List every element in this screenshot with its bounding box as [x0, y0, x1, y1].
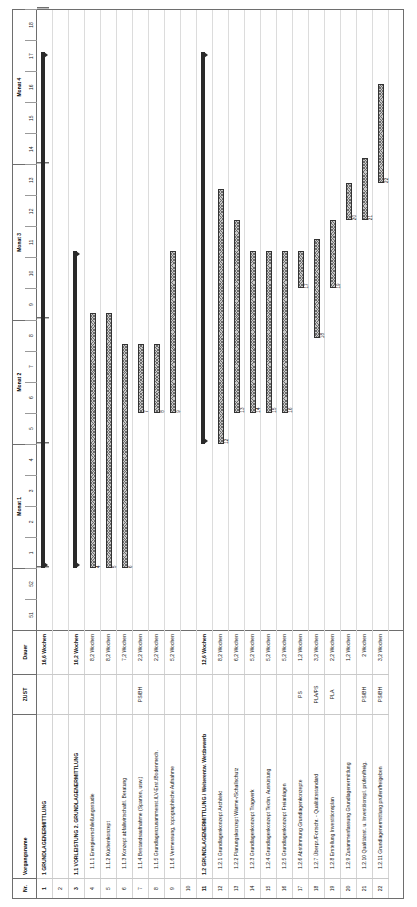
table-row[interactable]: 11 GRUNDLAGENERMITTLUNG16,6 Wochen [37, 630, 53, 898]
timeline-month-label [13, 568, 25, 630]
row-task-name [181, 714, 197, 878]
gantt-task-bar[interactable] [106, 313, 112, 568]
gantt-task-bar[interactable] [122, 344, 128, 568]
table-row[interactable]: 191.2.8 Erstellung InvestitionsplanPLA2,… [325, 630, 341, 898]
table-row[interactable]: 71.1.4 Bestandsaufnahme (Sparten, usw.)P… [133, 630, 149, 898]
row-duration: 3,2 Wochen [373, 630, 389, 674]
table-row[interactable]: 211.2.10 Qualitätsst. u. Investitionspl.… [357, 630, 373, 898]
row-duration: 1,2 Wochen [293, 630, 309, 674]
gantt-task-bar[interactable] [362, 158, 368, 220]
row-zust [101, 674, 117, 714]
row-zust [181, 674, 197, 714]
gantt-task-bar[interactable] [218, 189, 224, 444]
gantt-page: Nr. Vorgangsname ZUST Dauer 11 GRUNDLAGE… [0, 0, 417, 907]
gantt-task-bar[interactable] [138, 344, 144, 412]
gantt-task-bar[interactable] [378, 84, 384, 183]
row-task-name [53, 714, 69, 878]
row-task-name: 1.1.5 Grundlagenzusammenst./LV-Erst./Bod… [149, 714, 165, 878]
column-header-dauer: Dauer [13, 630, 37, 674]
gantt-bar-label: 22 [384, 178, 389, 183]
table-row[interactable]: 171.2.6 Abstimmung GrundlagenkonzeptePS1… [293, 630, 309, 898]
timeline-month-label: Monat 3 [13, 164, 25, 319]
timeline-week-label: 9 [25, 288, 37, 319]
table-row[interactable]: 81.1.5 Grundlagenzusammenst./LV-Erst./Bo… [149, 630, 165, 898]
row-number: 17 [293, 878, 309, 898]
column-header-name: Vorgangsname [13, 714, 37, 878]
table-row[interactable]: 2 [53, 630, 69, 898]
timeline-week-label: 3 [25, 475, 37, 506]
row-duration: 8,2 Wochen [101, 630, 117, 674]
table-row[interactable]: 121.2.1 Grundlagenkonzept Architekt8,2 W… [213, 630, 229, 898]
row-duration: 7,2 Wochen [117, 630, 133, 674]
row-zust: PLA/PS [309, 674, 325, 714]
column-header-nr: Nr. [13, 878, 37, 898]
row-number: 10 [181, 878, 197, 898]
row-number: 8 [149, 878, 165, 898]
row-number: 16 [277, 878, 293, 898]
table-row[interactable]: 51.1.2 Küchenkonzept8,2 Wochen [101, 630, 117, 898]
row-duration: 6,2 Wochen [229, 630, 245, 674]
row-number: 21 [357, 878, 373, 898]
gantt-summary-bar[interactable] [73, 251, 77, 568]
gantt-bar-label: 6 [128, 565, 133, 568]
row-task-name: 1.2.1 Grundlagenkonzept Architekt [213, 714, 229, 878]
row-duration: 5,2 Wochen [261, 630, 277, 674]
row-zust [37, 674, 53, 714]
table-row[interactable]: 41.1.1 Energieerschließungsstudie8,2 Woc… [85, 630, 101, 898]
timeline-grid-row [197, 10, 213, 630]
timeline-week-label: 52 [25, 568, 37, 599]
timeline-grid-row [37, 10, 53, 630]
row-task-name: 1.1.6 Vermessung, topographische Aufnahm… [165, 714, 181, 878]
row-number: 4 [85, 878, 101, 898]
gantt-summary-bar[interactable] [201, 52, 205, 443]
row-task-name: 1.2 GRUNDLAGENERMITTLUNG / Weiterentw. W… [197, 714, 213, 878]
row-duration: 1,2 Wochen [341, 630, 357, 674]
row-number: 15 [261, 878, 277, 898]
timeline-week-label: 6 [25, 382, 37, 413]
gantt-task-bar[interactable] [330, 220, 336, 288]
row-task-name: 1.1.3 Konzept abfallwirtschaftl. Beratun… [117, 714, 133, 878]
gantt-task-bar[interactable] [282, 251, 288, 412]
table-row[interactable]: 61.1.3 Konzept abfallwirtschaftl. Beratu… [117, 630, 133, 898]
chart-frame: Nr. Vorgangsname ZUST Dauer 11 GRUNDLAGE… [12, 9, 404, 899]
timeline-week-label: 16 [25, 71, 37, 102]
table-row[interactable]: 111.2 GRUNDLAGENERMITTLUNG / Weiterentw.… [197, 630, 213, 898]
table-row[interactable]: 161.2.5 Grundlagenkonzept Freianlagen5,2… [277, 630, 293, 898]
row-zust [341, 674, 357, 714]
row-zust: PS/BH [373, 674, 389, 714]
row-number: 12 [213, 878, 229, 898]
table-row[interactable]: 91.1.6 Vermessung, topographische Aufnah… [165, 630, 181, 898]
row-task-name: 1.2.8 Erstellung Investitionsplan [325, 714, 341, 878]
gantt-task-bar[interactable] [234, 220, 240, 413]
row-duration: 3,2 Wochen [309, 630, 325, 674]
table-row[interactable]: 141.2.3 Grundlagenkonzept Tragwerk5,2 Wo… [245, 630, 261, 898]
row-number: 6 [117, 878, 133, 898]
gantt-task-bar[interactable] [250, 251, 256, 412]
table-row[interactable]: 181.2.7 Überpr./Fortschr. - Qualitätssta… [309, 630, 325, 898]
table-row[interactable]: 221.2.11 Grundlagenermittlung prüfen/fre… [373, 630, 389, 898]
row-number: 22 [373, 878, 389, 898]
row-duration [181, 630, 197, 674]
gantt-task-bar[interactable] [154, 344, 160, 412]
table-row[interactable]: 10 [181, 630, 197, 898]
timeline-month-divider [37, 7, 49, 9]
table-row[interactable]: 131.2.2 Planungskonzept Wärme-/Schallsch… [229, 630, 245, 898]
table-row[interactable]: 31.1 VORLEISTUNG 2. GRUNDLAGENERMITTLUNG… [69, 630, 85, 898]
row-task-name: 1.2.9 Zusammenfassung Grundlagenermittlu… [341, 714, 357, 878]
gantt-task-bar[interactable] [314, 239, 320, 338]
gantt-task-bar[interactable] [170, 251, 176, 412]
row-task-name: 1.2.6 Abstimmung Grundlagenkonzepte [293, 714, 309, 878]
gantt-bar-label: 15 [272, 408, 277, 413]
gantt-summary-bar[interactable] [41, 52, 45, 567]
timeline-months: Monat 1Monat 2Monat 3Monat 4 [13, 10, 25, 630]
row-zust [213, 674, 229, 714]
timeline-grid-row [181, 10, 197, 630]
row-zust [85, 674, 101, 714]
table-row[interactable]: 201.2.9 Zusammenfassung Grundlagenermitt… [341, 630, 357, 898]
gantt-task-bar[interactable] [90, 313, 96, 568]
gantt-bar-label: 13 [240, 408, 245, 413]
row-number: 1 [37, 878, 53, 898]
gantt-task-bar[interactable] [266, 251, 272, 412]
row-number: 5 [101, 878, 117, 898]
table-row[interactable]: 151.2.4 Grundlagenkonzept Techn. Ausrüst… [261, 630, 277, 898]
